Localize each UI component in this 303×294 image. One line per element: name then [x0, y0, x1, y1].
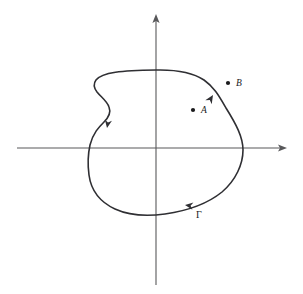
- x-axis-group: [17, 144, 287, 151]
- y-axis-group: [152, 14, 159, 285]
- point-a-label: A: [200, 105, 207, 115]
- point-b-label: B: [236, 78, 242, 88]
- contour-diagram: Γ A B: [0, 0, 303, 294]
- point-b-group: B: [226, 78, 242, 88]
- point-a-dot: [191, 108, 195, 112]
- point-b-dot: [226, 81, 230, 85]
- contour-direction-arrow-right: [205, 93, 216, 104]
- point-a-group: A: [191, 105, 207, 115]
- figure-canvas: Γ A B: [0, 0, 303, 294]
- contour-group: Γ: [88, 70, 243, 220]
- contour-curve-gamma: [88, 70, 243, 215]
- contour-label-gamma: Γ: [196, 209, 202, 220]
